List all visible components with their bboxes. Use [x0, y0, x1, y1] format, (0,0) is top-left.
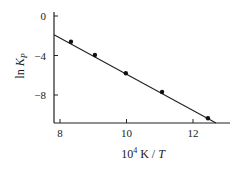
y-tick-label: −8 — [34, 89, 46, 101]
data-point — [69, 39, 73, 43]
chart: 0−4−881012 104 K / Tln KP — [0, 0, 241, 170]
y-tick-label: 0 — [41, 10, 47, 22]
axes: 0−4−881012 — [34, 10, 230, 139]
x-axis-label: 104 K / T — [121, 146, 166, 161]
data-point — [93, 53, 97, 57]
y-axis-label: ln KP — [13, 53, 29, 78]
axis-labels: 104 K / Tln KP — [13, 53, 166, 161]
data-point — [124, 71, 128, 75]
data-point — [206, 116, 210, 120]
fit-line — [54, 35, 216, 123]
x-tick-label: 12 — [188, 127, 199, 139]
x-tick-label: 8 — [57, 127, 63, 139]
y-tick-label: −4 — [34, 50, 46, 62]
regression-line — [54, 35, 216, 123]
x-tick-label: 10 — [121, 127, 133, 139]
data-point — [160, 90, 164, 94]
